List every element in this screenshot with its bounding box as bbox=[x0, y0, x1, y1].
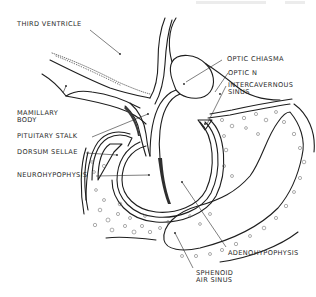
label-optic-chiasma: OPTIC CHIASMA bbox=[227, 56, 284, 63]
sella-turcica bbox=[86, 99, 292, 222]
pituitary-stalk bbox=[124, 90, 180, 158]
label-mamillary-body-2: BODY bbox=[17, 117, 37, 124]
mamillary-body-outline bbox=[42, 74, 140, 108]
label-third-ventricle: THIRD VENTRICLE bbox=[17, 21, 82, 28]
label-intercavernous-sinus-2: SINUS bbox=[228, 89, 250, 96]
label-pituitary-stalk: PITUITARY STALK bbox=[17, 133, 78, 140]
optic-n-marker bbox=[219, 93, 221, 95]
label-adenohypophysis: ADENOHYPOPHYSIS bbox=[228, 250, 299, 257]
label-optic-n: OPTIC N bbox=[228, 70, 257, 77]
hypophysis bbox=[148, 158, 183, 204]
optic-chiasma bbox=[170, 55, 213, 98]
infundibular-recess-wall-left bbox=[150, 18, 165, 98]
label-dorsum-sellae: DORSUM SELLAE bbox=[17, 149, 78, 156]
sphenoid-bone bbox=[81, 104, 314, 262]
label-neurohypophysis: NEUROHYPOPHYSIS bbox=[17, 172, 87, 179]
label-sphenoid-air-sinus-2: AIR SINUS bbox=[196, 277, 232, 284]
third-ventricle-floor bbox=[50, 53, 150, 98]
leader-lines bbox=[63, 30, 228, 268]
